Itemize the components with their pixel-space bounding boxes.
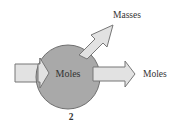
step-number: 2	[69, 112, 74, 122]
mole-conversion-diagram: Moles Moles Masses 2	[0, 0, 177, 129]
masses-arrow	[79, 25, 113, 59]
output-masses-label: Masses	[113, 10, 141, 20]
output-moles-label: Moles	[143, 69, 167, 79]
center-label: Moles	[56, 68, 81, 79]
